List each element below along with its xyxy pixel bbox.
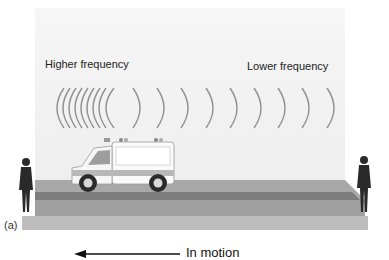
panel-label: (a) [4,219,17,231]
ambulance [72,138,174,192]
compressed-wavefronts [57,88,114,128]
motion-arrow [74,250,180,258]
motion-label: In motion [186,245,239,260]
road [22,180,368,230]
observer-left-silhouette [19,158,33,212]
stretched-wavefronts [133,88,334,128]
sound-waves-diagram [0,0,389,260]
